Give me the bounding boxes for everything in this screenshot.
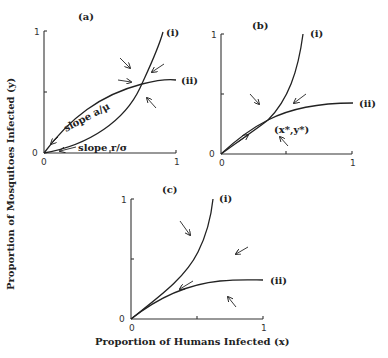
panel-c-tick-x1: 1 <box>261 323 267 333</box>
panel-c-tick-y1: 1 <box>121 195 127 205</box>
panel-c-curve-ii-label: (ii) <box>270 275 287 286</box>
panel-b-tick-x0: 0 <box>219 158 225 168</box>
panel-c-label: (c) <box>162 184 178 195</box>
panel-a-tick-y0: 0 <box>32 148 38 158</box>
panel-a-curve-i <box>44 32 163 153</box>
panel-b-equilibrium-label: (x*,y*) <box>274 124 309 136</box>
panel-b-tick-y1: 1 <box>211 30 217 40</box>
panel-a-slope-r-sigma: slope r/σ <box>78 142 127 153</box>
panel-c-curve-i-label: (i) <box>219 193 232 204</box>
phase-plane-figure: Proportion of Mosquitoes Infected (y) (a… <box>0 0 388 358</box>
panel-c-curve-ii <box>131 280 263 319</box>
panel-a: (a) 1 0 0 1 (i) (ii) slope a/μ slope r/σ <box>32 11 198 167</box>
panel-b: (b) 1 0 0 1 (i) (ii) (x*,y*) <box>209 20 376 168</box>
panel-b-curve-i-label: (i) <box>310 28 323 39</box>
panel-b-label: (b) <box>252 20 268 31</box>
y-axis-label: Proportion of Mosquitoes Infected (y) <box>5 78 16 290</box>
panel-c-curve-i <box>131 199 213 319</box>
panel-a-label: (a) <box>78 11 94 22</box>
panel-a-tick-x0: 0 <box>41 157 47 167</box>
panel-b-curve-ii-label: (ii) <box>359 98 376 109</box>
panel-c: (c) 1 0 0 1 (i) (ii) <box>119 184 287 333</box>
panel-b-tick-y0: 0 <box>209 149 215 159</box>
panel-c-tick-y0: 0 <box>119 314 125 324</box>
panel-b-tick-x1: 1 <box>350 158 356 168</box>
panel-a-tick-y1: 1 <box>34 27 40 37</box>
panel-a-curve-i-label: (i) <box>166 27 179 38</box>
x-axis-label: Proportion of Humans Infected (x) <box>95 336 289 347</box>
panel-a-curve-ii-label: (ii) <box>181 75 198 86</box>
panel-a-tick-x1: 1 <box>174 157 180 167</box>
panel-c-tick-x0: 0 <box>129 323 135 333</box>
panel-b-curve-i <box>221 34 303 154</box>
